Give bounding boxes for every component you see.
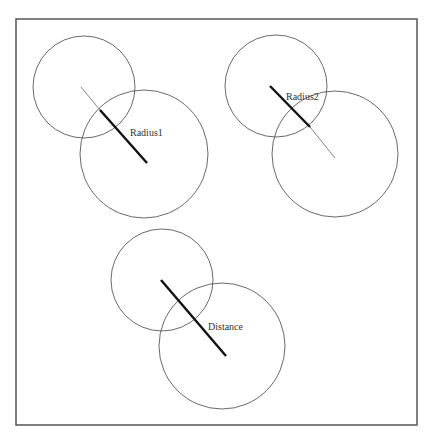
diagram-frame [16,19,417,425]
small-circle [33,36,135,138]
large-circle [159,283,285,409]
circle-intersection-diagram: Radius1 Radius2 Distance [0,0,431,440]
center-line-thin [81,87,100,110]
radius1-label: Radius1 [130,127,163,138]
center-line-thin [310,127,335,158]
radius2-label: Radius2 [286,91,319,102]
panel-radius1: Radius1 [33,36,208,218]
large-circle [272,91,398,217]
distance-label: Distance [208,321,244,332]
distance-segment [161,280,226,356]
panel-radius2: Radius2 [225,35,398,217]
small-circle [225,35,327,137]
panel-distance: Distance [111,229,285,409]
